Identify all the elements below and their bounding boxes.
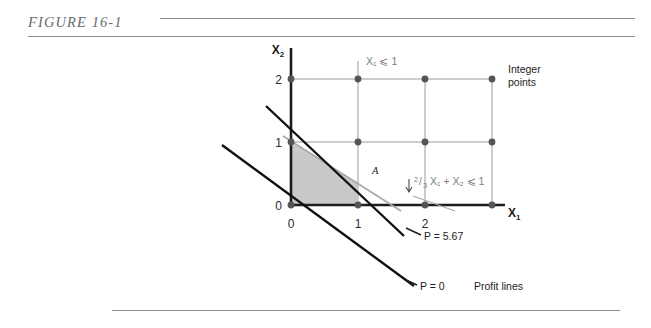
feasible-region: [291, 142, 358, 205]
integer-points-label-line2: points: [508, 76, 536, 88]
chart-plot-area: X2 X1 2 1 0 0 1 2 X₁ ⩽ 1 2 / 3 X₁ + X₂ ⩽…: [0, 0, 651, 328]
integer-point: [288, 139, 295, 146]
constraint-frac-denominator: 3: [423, 181, 427, 190]
chart-svg: X2 X1 2 1 0 0 1 2 X₁ ⩽ 1 2 / 3 X₁ + X₂ ⩽…: [0, 0, 651, 328]
constraint-frac-numerator: 2: [414, 175, 418, 184]
y-tick-1: 1: [275, 136, 282, 150]
svg-text:/: /: [419, 176, 422, 187]
profit-label-567: P = 5.67: [424, 230, 463, 242]
integer-point: [422, 202, 429, 209]
integer-point: [355, 139, 362, 146]
integer-point: [355, 202, 362, 209]
y-tick-2: 2: [275, 73, 282, 87]
x-tick-2: 2: [422, 217, 429, 231]
y-tick-0: 0: [275, 199, 282, 213]
profit-567-leader: [406, 228, 421, 235]
integer-point: [422, 139, 429, 146]
integer-point: [288, 76, 295, 83]
figure-page: FIGURE 16-1: [0, 0, 651, 328]
x-tick-0: 0: [288, 217, 295, 231]
integer-point: [288, 202, 295, 209]
constraint-label-rest: X₁ + X₂ ⩽ 1: [430, 175, 484, 187]
vertex-a-label: A: [371, 165, 379, 176]
x-tick-1: 1: [355, 217, 362, 231]
integer-points-label-line1: Integer: [508, 63, 541, 75]
profit-label-0: P = 0: [420, 280, 445, 292]
footer-rule: [112, 310, 620, 311]
integer-point: [422, 76, 429, 83]
integer-point: [489, 202, 496, 209]
integer-point: [489, 139, 496, 146]
constraint-label-vertical: X₁ ⩽ 1: [366, 55, 397, 67]
profit-lines-caption: Profit lines: [474, 280, 523, 292]
y-axis-label: X2: [272, 43, 285, 59]
integer-point: [489, 76, 496, 83]
integer-point: [355, 76, 362, 83]
x-axis-label: X1: [508, 206, 521, 222]
